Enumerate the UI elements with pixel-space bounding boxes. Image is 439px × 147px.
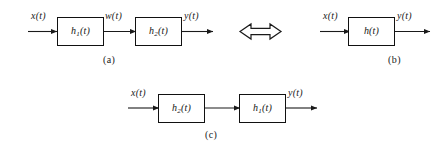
panel-a-block-1-arg: (t) [80, 25, 90, 36]
panel-a-block-2-arg: (t) [158, 25, 168, 36]
panel-c-block-2-label: h1(t) [239, 102, 286, 115]
panel-b-output-label: y(t) [397, 10, 412, 21]
panel-c-output-label: y(t) [288, 87, 303, 98]
block-diagram-figure: h1(t) h2(t) x(t) w(t) y(t) (a) h(t) x(t)… [0, 0, 439, 147]
panel-a-output-label: y(t) [184, 10, 199, 21]
panel-b-block-1-label: h(t) [348, 25, 395, 38]
panel-b-input-label: x(t) [323, 10, 338, 21]
panel-c-input-label: x(t) [131, 87, 146, 98]
panel-a-block-1-label: h1(t) [57, 25, 104, 38]
panel-c-caption: (c) [205, 129, 217, 140]
panel-b-caption: (b) [388, 54, 401, 65]
panel-a-input-label: x(t) [31, 10, 46, 21]
panel-a-block-2-label: h2(t) [135, 25, 182, 38]
panel-a-intermediate-label: w(t) [105, 10, 122, 21]
panel-a-caption: (a) [103, 54, 115, 65]
panel-c-block-1-label: h2(t) [158, 102, 205, 115]
panel-c-block-2-arg: (t) [262, 102, 272, 113]
panel-b-block-1-arg: (t) [369, 25, 379, 36]
panel-c-block-1-arg: (t) [181, 102, 191, 113]
equivalence-double-arrow-icon [240, 24, 281, 39]
